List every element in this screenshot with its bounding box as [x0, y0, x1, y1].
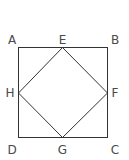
inner-square-efgh: [19, 48, 108, 138]
label-a: A: [8, 33, 17, 47]
label-h: H: [5, 86, 14, 100]
label-c: C: [111, 143, 119, 157]
label-d: D: [7, 143, 16, 157]
geometry-diagram: A E B H F D G C: [0, 0, 129, 160]
outer-square-abcd: [19, 48, 108, 138]
label-b: B: [111, 33, 119, 47]
label-e: E: [59, 33, 67, 47]
label-f: F: [112, 86, 119, 100]
label-g: G: [58, 143, 67, 157]
